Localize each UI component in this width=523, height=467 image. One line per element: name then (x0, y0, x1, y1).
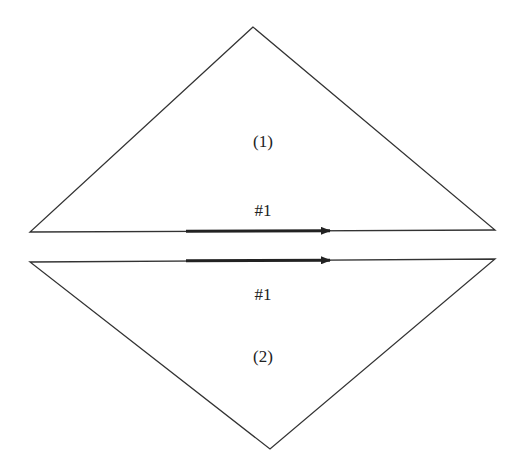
diagram-svg (0, 0, 523, 467)
triangle-1-label: (1) (253, 133, 273, 150)
edge-arrow-upper (186, 231, 330, 232)
edge-label-lower: #1 (255, 286, 272, 303)
edge-arrow-lower (186, 260, 330, 261)
triangle-2-label: (2) (253, 348, 273, 365)
edge-label-upper: #1 (255, 202, 272, 219)
diagram-canvas: (1) #1 #1 (2) (0, 0, 523, 467)
